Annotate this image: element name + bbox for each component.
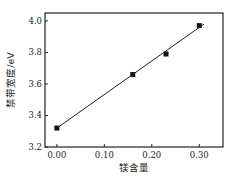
x-tick-label: 0.20 — [142, 150, 161, 160]
series-layer — [54, 23, 204, 130]
fit-line — [57, 24, 204, 128]
x-tick-label: 0.00 — [47, 150, 66, 160]
y-tick-label: 3.8 — [28, 47, 42, 57]
y-axis-title: 禁带宽度/eV — [5, 52, 16, 108]
y-tick-label: 3.4 — [28, 110, 42, 120]
y-tick-label: 4.0 — [28, 16, 42, 26]
chart: 3.23.43.63.84.0 0.000.100.200.30 镁含量 禁带宽… — [0, 0, 231, 180]
y-tick-label: 3.6 — [28, 79, 42, 89]
y-tick-label: 3.2 — [28, 142, 42, 152]
x-tick-label: 0.10 — [95, 150, 114, 160]
x-tick-label: 0.30 — [190, 150, 209, 160]
x-axis-title: 镁含量 — [119, 162, 149, 173]
x-axis: 0.000.100.200.30 — [47, 144, 208, 160]
plot-frame — [45, 13, 223, 147]
